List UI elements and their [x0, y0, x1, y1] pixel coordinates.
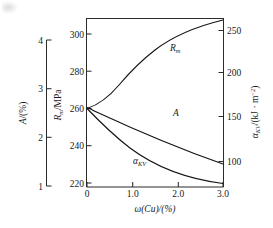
axis-title-rm-rest: /MPa — [53, 89, 63, 110]
tick-label-a-2: 2 — [38, 133, 43, 143]
tick-label-akv-250: 250 — [227, 26, 242, 36]
axis-title-akv-tail: ) — [250, 86, 261, 89]
curves — [87, 20, 223, 184]
axis-right: 250 200 150 100 αKV/(kJ · m−2) — [219, 26, 262, 167]
curve-label-a: A — [172, 108, 179, 118]
axis-title-akv: αKV/(kJ · m−2) — [249, 86, 261, 139]
curve-labels: Rm A αKV — [133, 43, 181, 167]
svg-text:Rm/MPa: Rm/MPa — [53, 89, 64, 122]
axis-title-rm: Rm/MPa — [53, 89, 64, 122]
tick-label-a-3: 3 — [38, 84, 43, 94]
axis-title-a-rest: /(%) — [18, 102, 29, 119]
curve-akv — [87, 109, 223, 184]
tick-label-rm-280: 280 — [70, 67, 85, 77]
curve-label-rm-sub: m — [176, 47, 181, 54]
axis-title-x: ω(Cu)/(%) — [134, 204, 175, 215]
svg-text:A/(%): A/(%) — [18, 102, 29, 126]
tick-label-rm-300: 300 — [70, 30, 85, 40]
tick-label-a-1: 1 — [38, 182, 43, 192]
axis-title-akv-rest: /(kJ · m — [250, 95, 261, 125]
tick-label-rm-240: 240 — [70, 141, 85, 151]
tick-label-akv-200: 200 — [227, 68, 242, 78]
plot-frame — [87, 18, 224, 187]
curve-rm — [87, 20, 223, 109]
curve-label-rm: Rm — [169, 43, 181, 54]
tick-label-rm-260: 260 — [70, 104, 85, 114]
tick-label-x-2: 2.0 — [172, 189, 184, 199]
curve-label-akv-sub: KV — [137, 160, 147, 167]
tick-label-x-3: 3.0 — [217, 189, 229, 199]
svg-text:αKV/(kJ · m−2): αKV/(kJ · m−2) — [249, 86, 261, 139]
chart-svg: 4 3 2 1 A/(%) 300 280 260 240 220 Rm/MPa — [0, 0, 273, 228]
axis-title-akv-sup: −2 — [249, 89, 256, 96]
tick-label-akv-150: 150 — [227, 112, 242, 122]
curve-a — [87, 108, 223, 165]
tick-label-rm-220: 220 — [70, 179, 85, 189]
tick-label-akv-100: 100 — [227, 157, 242, 167]
axis-title-a: A/(%) — [18, 102, 29, 126]
tick-label-x-0: 0 — [85, 189, 90, 199]
axis-left-outer: 4 3 2 1 A/(%) — [18, 36, 52, 192]
tick-label-x-1: 1.0 — [127, 189, 139, 199]
axis-left-inner: 300 280 260 240 220 Rm/MPa — [53, 30, 92, 189]
figure-chart: 4 3 2 1 A/(%) 300 280 260 240 220 Rm/MPa — [0, 0, 273, 228]
tick-label-a-4: 4 — [38, 36, 43, 46]
